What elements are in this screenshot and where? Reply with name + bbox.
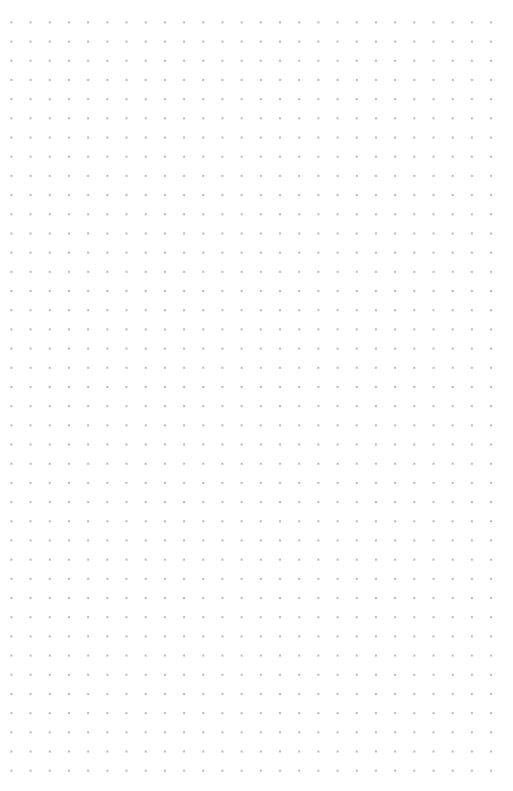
page-margin-bottom (0, 779, 513, 791)
page-margin-top (0, 0, 513, 11)
page-content-area[interactable] (11, 22, 491, 770)
page-margin-left (0, 0, 2, 791)
dot-grid-canvas-page[interactable] (0, 0, 513, 791)
page-margin-right (501, 0, 513, 791)
